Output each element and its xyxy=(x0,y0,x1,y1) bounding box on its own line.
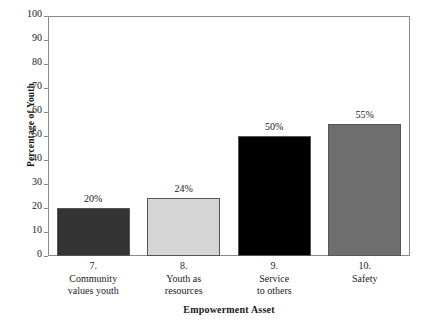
bar[interactable] xyxy=(57,208,130,256)
y-axis-tick-label: 10 xyxy=(32,225,42,235)
x-axis-category-line: 10. xyxy=(320,260,411,273)
y-axis-tick-label: 0 xyxy=(37,249,42,259)
y-axis-tick-label: 70 xyxy=(32,81,42,91)
x-axis-category-line: Safety xyxy=(320,273,411,286)
x-axis-categories: 7.Communityvalues youth8.Youth asresourc… xyxy=(48,260,410,302)
bar-value-label: 50% xyxy=(238,122,311,132)
y-axis-tick-label: 40 xyxy=(32,153,42,163)
y-axis-tick-label: 60 xyxy=(32,105,42,115)
bar[interactable] xyxy=(147,198,220,256)
bar-series: 20%24%50%55% xyxy=(48,16,410,256)
bar-value-label: 55% xyxy=(328,110,401,120)
bar-group: 50% xyxy=(238,16,311,256)
x-axis-category-line: 9. xyxy=(229,260,320,273)
x-axis-category-label: 10.Safety xyxy=(320,260,411,285)
y-axis-tick-label: 30 xyxy=(32,177,42,187)
y-axis-ticks: 1009080706050403020100 xyxy=(0,16,48,256)
x-axis-category-line: values youth xyxy=(48,285,139,298)
bar[interactable] xyxy=(328,124,401,256)
x-axis-category-line: Youth as xyxy=(139,273,230,286)
bar-value-label: 20% xyxy=(57,194,130,204)
x-axis-category-line: Service xyxy=(229,273,320,286)
x-axis-category-line: resources xyxy=(139,285,230,298)
y-axis-tick-label: 80 xyxy=(32,57,42,67)
y-axis-tick-label: 90 xyxy=(32,33,42,43)
x-axis-category-line: Community xyxy=(48,273,139,286)
y-axis-tick-label: 50 xyxy=(32,129,42,139)
bar-group: 55% xyxy=(328,16,401,256)
x-axis-category-line: 7. xyxy=(48,260,139,273)
y-axis-tick-label: 20 xyxy=(32,201,42,211)
bar-chart: Percentage of Youth 10090807060504030201… xyxy=(0,0,431,327)
x-axis-category-label: 8.Youth asresources xyxy=(139,260,230,298)
bar[interactable] xyxy=(238,136,311,256)
y-axis-tick-mark xyxy=(44,256,48,257)
x-axis-category-label: 9.Serviceto others xyxy=(229,260,320,298)
x-axis-category-line: to others xyxy=(229,285,320,298)
bar-group: 20% xyxy=(57,16,130,256)
x-axis-category-line: 8. xyxy=(139,260,230,273)
bar-group: 24% xyxy=(147,16,220,256)
y-axis-tick-label: 100 xyxy=(27,9,42,19)
x-axis-category-label: 7.Communityvalues youth xyxy=(48,260,139,298)
x-axis-title: Empowerment Asset xyxy=(48,304,410,315)
bar-value-label: 24% xyxy=(147,184,220,194)
